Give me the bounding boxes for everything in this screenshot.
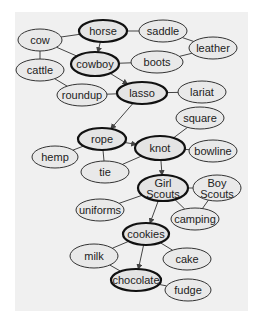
node-label: camping [174,213,216,225]
node-cookies: cookies [123,223,169,245]
node-label: square [183,112,217,124]
edge-cookies-chocolate [138,245,143,269]
node-label: roundup [62,89,102,101]
edge-milk-chocolate [110,265,121,271]
node-cake: cake [163,248,211,270]
edge-boots-leather [179,53,192,56]
node-milk: milk [70,244,118,268]
node-label: fudge [174,284,202,296]
node-label: knot [150,142,171,154]
edge-cow-cowboy [57,47,77,56]
edge-cookies-cake [160,243,172,251]
node-boyscouts: BoyScouts [193,175,241,201]
node-label: milk [84,250,104,262]
edge-horse-cowboy [98,42,100,52]
node-label: lasso [129,87,155,99]
node-uniforms: uniforms [76,199,124,221]
node-label: tie [99,166,111,178]
node-label: rope [91,133,113,145]
node-label: uniforms [79,204,122,216]
node-label: Scouts [200,188,234,200]
node-label: bowline [194,145,231,157]
node-label: cookies [127,228,165,240]
edge-cookies-milk [112,241,128,248]
edge-girlscouts-cookies [150,201,158,223]
edge-girlscouts-uniforms [119,195,142,203]
node-boots: boots [131,51,183,73]
edge-knot-tie [122,156,141,164]
edge-lasso-rope [111,103,133,129]
node-horse: horse [79,20,127,42]
nodes-layer: horsesaddlecowleathercowboybootscattlero… [16,20,241,301]
node-roundup: roundup [57,84,107,106]
edge-cow-horse [61,34,80,37]
node-label: lariat [190,86,214,98]
node-label: saddle [147,25,179,37]
node-square: square [176,107,224,129]
node-fudge: fudge [165,279,211,301]
edge-boyscouts-camping [202,200,208,208]
node-label: cow [30,34,50,46]
node-label: hemp [41,151,69,163]
node-cow: cow [18,29,62,51]
node-cowboy: cowboy [71,52,119,76]
edge-cowboy-lasso [110,73,127,84]
node-girlscouts: GirlScouts [138,175,188,201]
node-label: cowboy [76,58,114,70]
node-cattle: cattle [16,59,64,81]
node-knot: knot [135,136,185,160]
node-label: horse [89,25,117,37]
edge-rope-hemp [73,146,84,150]
node-label: Scouts [146,188,180,200]
edge-girlscouts-camping [175,199,185,209]
node-lasso: lasso [117,82,167,104]
node-tie: tie [81,161,129,183]
semantic-network-diagram: horsesaddlecowleathercowboybootscattlero… [0,0,261,324]
node-chocolate: chocolate [111,269,161,291]
node-label: chocolate [112,274,159,286]
edge-knot-girlscouts [161,160,162,175]
node-hemp: hemp [32,146,78,168]
edge-cattle-roundup [55,79,67,86]
edge-rope-knot [125,143,136,145]
edge-saddle-leather [182,38,193,42]
node-bowline: bowline [189,140,237,162]
node-label: boots [144,56,171,68]
node-camping: camping [171,208,219,230]
node-saddle: saddle [139,20,187,42]
node-lariat: lariat [178,81,226,103]
node-rope: rope [78,128,126,150]
node-label: cattle [27,64,53,76]
edge-rope-tie [103,150,104,161]
node-label: leather [196,42,230,54]
node-label: cake [175,253,198,265]
node-leather: leather [189,37,237,59]
edge-knot-square [173,127,187,138]
